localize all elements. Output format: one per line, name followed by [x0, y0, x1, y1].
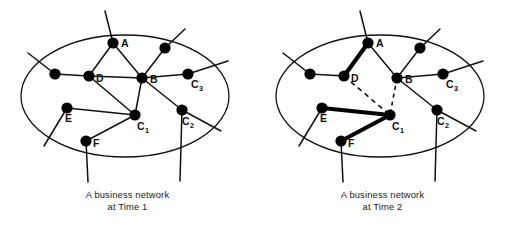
node-label-subscript: 3 — [454, 84, 458, 93]
node-dot-icon — [49, 68, 60, 79]
node-label-C2: C2 — [182, 115, 194, 130]
node-label-B: B — [405, 73, 413, 85]
node-label-D: D — [96, 72, 104, 84]
node-dot-icon — [159, 42, 170, 53]
edge-B-C1 — [135, 78, 142, 115]
node-label-C3: C3 — [191, 78, 203, 93]
caption-time2: A business network at Time 2 — [255, 189, 510, 213]
node-layer-time1: ABDEFC1C2C3 — [49, 37, 203, 149]
node-C3[interactable]: C3 — [182, 68, 203, 92]
node-label-C2: C2 — [437, 115, 449, 130]
diagram-panel-time1: ABDEFC1C2C3 A business network at Time 1 — [0, 0, 255, 228]
external-tie-stub-F-6 — [86, 141, 88, 182]
caption-line-1: A business network — [255, 189, 510, 201]
diagram-panel-time2: ABDEFC1C2C3 A business network at Time 2 — [255, 0, 510, 228]
node-dot-icon — [80, 135, 91, 146]
node-label-C1: C1 — [137, 120, 149, 135]
node-dot-icon — [414, 42, 425, 53]
network-boundary-ellipse — [21, 35, 229, 157]
node-C3[interactable]: C3 — [437, 68, 458, 92]
node-label-C1: C1 — [392, 120, 404, 135]
node-dot-icon — [176, 104, 187, 115]
node-dot-icon — [338, 70, 349, 81]
node-C1[interactable]: C1 — [129, 109, 149, 134]
node-A[interactable]: A — [107, 37, 129, 49]
node-C2[interactable]: C2 — [176, 104, 194, 129]
node-label-A: A — [376, 37, 384, 49]
node-C2[interactable]: C2 — [431, 104, 449, 129]
edge-B-C1 — [390, 78, 397, 115]
external-tie-stub-E-5 — [44, 108, 67, 146]
caption-line-2: at Time 1 — [0, 201, 255, 213]
node-label-A: A — [121, 37, 129, 49]
node-dot-icon — [362, 37, 373, 48]
node-label-C3: C3 — [446, 78, 458, 93]
business-network-figure: ABDEFC1C2C3 A business network at Time 1… — [0, 0, 510, 228]
caption-line-1: A business network — [0, 189, 255, 201]
node-F[interactable]: F — [80, 135, 100, 149]
caption-time1: A business network at Time 1 — [0, 189, 255, 213]
node-label-D: D — [351, 72, 359, 84]
node-dot-icon — [83, 70, 94, 81]
edge-layer-time2 — [310, 43, 443, 141]
node-U1[interactable] — [49, 68, 60, 79]
node-dot-icon — [391, 72, 402, 83]
node-F[interactable]: F — [335, 135, 355, 149]
node-dot-icon — [136, 72, 147, 83]
node-U1[interactable] — [304, 68, 315, 79]
node-C1[interactable]: C1 — [384, 109, 404, 134]
node-U2[interactable] — [414, 42, 425, 53]
node-dot-icon — [304, 68, 315, 79]
caption-line-2: at Time 2 — [255, 201, 510, 213]
node-label-subscript: 1 — [400, 126, 404, 135]
node-label-E: E — [320, 112, 327, 124]
edge-B-C2 — [142, 78, 182, 110]
node-label-subscript: 3 — [199, 84, 203, 93]
node-dot-icon — [335, 135, 346, 146]
node-dot-icon — [431, 104, 442, 115]
edge-B-C3 — [397, 74, 443, 78]
network-boundary-ellipse — [276, 35, 484, 157]
node-label-subscript: 2 — [445, 121, 449, 130]
node-D[interactable]: D — [83, 70, 104, 84]
edge-B-C3 — [142, 74, 188, 78]
node-label-subscript: 1 — [145, 126, 149, 135]
node-label-B: B — [150, 73, 158, 85]
node-dot-icon — [107, 37, 118, 48]
node-U2[interactable] — [159, 42, 170, 53]
external-tie-stub-E-5 — [299, 108, 322, 146]
edge-layer-time1 — [55, 43, 188, 141]
node-label-F: F — [93, 137, 100, 149]
external-tie-stub-F-6 — [341, 141, 343, 182]
node-dot-icon — [129, 109, 140, 120]
node-label-E: E — [65, 112, 72, 124]
node-label-subscript: 2 — [190, 121, 194, 130]
node-dot-icon — [384, 109, 395, 120]
edge-E-C1 — [322, 108, 390, 115]
node-layer-time2: ABDEFC1C2C3 — [304, 37, 458, 149]
external-tie-stub-C3-3 — [188, 61, 228, 74]
edge-B-C2 — [397, 78, 437, 110]
external-tie-stub-C3-3 — [443, 61, 483, 74]
node-A[interactable]: A — [362, 37, 384, 49]
node-label-F: F — [348, 137, 355, 149]
edge-E-C1 — [67, 108, 135, 115]
